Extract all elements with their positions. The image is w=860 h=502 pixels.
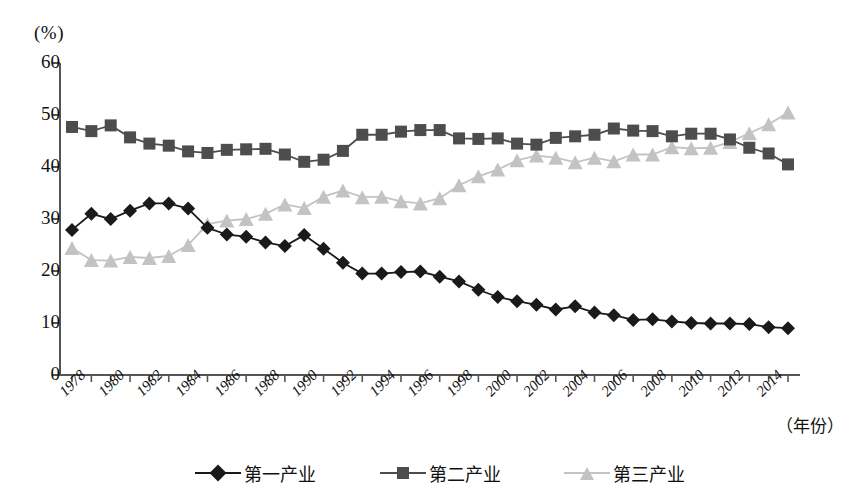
data-point-marker [781, 321, 795, 335]
data-point-marker [239, 230, 253, 244]
data-point-marker [65, 241, 80, 255]
legend-item-1[interactable]: 第一产业 [195, 460, 316, 486]
data-point-marker [627, 125, 639, 137]
legend-swatch-square-icon [380, 465, 426, 481]
data-point-marker [297, 228, 311, 242]
data-point-marker [432, 191, 447, 205]
y-axis-unit-label: (%) [34, 22, 64, 44]
data-point-marker [105, 119, 117, 131]
data-point-marker [297, 201, 312, 215]
diamond-marker-icon [210, 465, 227, 482]
data-point-marker [356, 129, 368, 141]
data-point-marker [298, 156, 310, 168]
data-point-marker [337, 145, 349, 157]
data-point-marker [335, 183, 350, 197]
data-point-marker [259, 235, 273, 249]
data-point-marker [606, 154, 621, 168]
plot-area [0, 0, 860, 502]
data-point-marker [104, 212, 118, 226]
data-point-marker [336, 256, 350, 270]
data-point-marker [123, 204, 137, 218]
series-2 [66, 119, 794, 170]
data-point-marker [318, 154, 330, 166]
data-point-marker [452, 274, 466, 288]
data-point-marker [316, 190, 331, 204]
y-axis-tick-label: 10 [18, 311, 60, 333]
y-axis-tick-label: 20 [18, 259, 60, 281]
data-point-marker [569, 130, 581, 142]
data-point-marker [221, 144, 233, 156]
data-point-marker [646, 312, 660, 326]
data-point-marker [742, 126, 757, 140]
data-point-marker [781, 105, 796, 119]
data-point-marker [685, 128, 697, 140]
data-point-marker [413, 265, 427, 279]
series-line [72, 125, 788, 164]
data-point-marker [492, 132, 504, 144]
data-point-marker [529, 298, 543, 312]
chart-figure: (%) 0102030405060 1978198019821984198619… [0, 0, 860, 502]
data-point-marker [471, 283, 485, 297]
data-point-marker [201, 147, 213, 159]
data-point-marker [471, 169, 486, 183]
data-point-marker [511, 138, 523, 150]
legend-swatch-triangle-icon [564, 465, 610, 481]
data-point-marker [704, 317, 718, 331]
data-point-marker [588, 129, 600, 141]
data-point-marker [258, 207, 273, 221]
data-point-marker [626, 313, 640, 327]
y-axis-tick-label: 30 [18, 207, 60, 229]
legend-label: 第二产业 [429, 460, 501, 486]
data-point-marker [665, 314, 679, 328]
data-point-marker [220, 228, 234, 242]
data-point-marker [260, 143, 272, 155]
data-point-marker [142, 196, 156, 210]
data-point-marker [723, 317, 737, 331]
data-point-marker [240, 143, 252, 155]
data-point-marker [491, 290, 505, 304]
y-axis-tick-label: 40 [18, 155, 60, 177]
data-point-marker [724, 133, 736, 145]
data-point-marker [375, 267, 389, 281]
data-point-marker [684, 316, 698, 330]
data-point-marker [568, 299, 582, 313]
data-point-marker [530, 139, 542, 151]
legend-label: 第一产业 [244, 460, 316, 486]
data-point-marker [66, 121, 78, 133]
data-point-marker [608, 123, 620, 135]
data-point-marker [395, 126, 407, 138]
data-point-marker [163, 140, 175, 152]
data-point-marker [143, 138, 155, 150]
data-point-marker [434, 124, 446, 136]
data-point-marker [587, 306, 601, 320]
data-point-marker [762, 320, 776, 334]
data-point-marker [568, 155, 583, 169]
data-point-marker [763, 147, 775, 159]
data-point-marker [549, 302, 563, 316]
data-point-marker [490, 163, 505, 177]
data-point-marker [510, 153, 525, 167]
data-point-marker [279, 149, 291, 161]
data-point-marker [182, 145, 194, 157]
data-point-marker [453, 132, 465, 144]
data-point-marker [433, 270, 447, 284]
data-point-marker [666, 130, 678, 142]
legend-item-3[interactable]: 第三产业 [564, 460, 685, 486]
legend-label: 第三产业 [613, 460, 685, 486]
data-point-marker [587, 151, 602, 165]
y-axis-tick-label: 50 [18, 103, 60, 125]
data-point-marker [355, 267, 369, 281]
data-point-marker [742, 317, 756, 331]
data-point-marker [317, 242, 331, 256]
series-1 [65, 196, 795, 335]
square-marker-icon [397, 467, 409, 479]
data-point-marker [743, 142, 755, 154]
data-point-marker [550, 132, 562, 144]
data-point-marker [452, 178, 467, 192]
data-point-marker [782, 158, 794, 170]
data-point-marker [414, 124, 426, 136]
legend-item-2[interactable]: 第二产业 [380, 460, 501, 486]
data-point-marker [394, 265, 408, 279]
triangle-marker-icon [580, 467, 594, 480]
chart-legend: 第一产业第二产业第三产业 [195, 458, 685, 488]
